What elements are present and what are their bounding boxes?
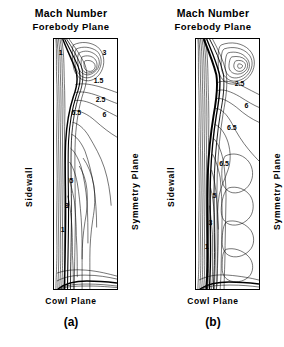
contour-label: 3	[209, 218, 213, 225]
panel-a-title-main: Mach Number	[0, 7, 142, 19]
panel-b-caption: (b)	[142, 315, 284, 329]
panel-b-title-main: Mach Number	[142, 7, 284, 19]
panel-a-label-cowl-plane: Cowl Plane	[0, 296, 142, 306]
contour-label: 6.5	[71, 109, 81, 116]
panel-a-caption: (a)	[0, 315, 142, 329]
panel-a-contour-plot: 1 3 1.5 2.5 6.5 6 5 3 1	[54, 39, 117, 289]
contour-label: 6.5	[219, 160, 229, 167]
contour-label: 1	[205, 243, 209, 250]
contour-label: 5	[70, 177, 74, 184]
contour-label: 2.5	[235, 80, 245, 87]
panel-b: Mach Number Forebody Plane Sidewall Symm…	[142, 0, 284, 347]
panel-b-plot-frame: 2.5 6 6.5 6.5 5 3 1	[195, 38, 260, 290]
contour-label: 6	[244, 102, 248, 109]
panel-b-contour-plot: 2.5 6 6.5 6.5 5 3 1	[196, 39, 259, 289]
panel-a: Mach Number Forebody Plane Sidewall Symm…	[0, 0, 142, 347]
panel-b-title-sub: Forebody Plane	[142, 21, 284, 32]
contour-label: 2.5	[96, 96, 106, 103]
contour-label: 1	[61, 226, 65, 233]
panel-a-label-symmetry-plane: Symmetry Plane	[130, 153, 140, 230]
panel-a-label-sidewall: Sidewall	[24, 167, 34, 207]
mach-number-contour-figure: Mach Number Forebody Plane Sidewall Symm…	[0, 0, 284, 347]
contour-label: 1	[59, 49, 63, 56]
panel-b-label-sidewall: Sidewall	[166, 167, 176, 207]
panel-b-label-cowl-plane: Cowl Plane	[142, 296, 284, 306]
panel-a-title-sub: Forebody Plane	[0, 21, 142, 32]
panel-a-plot-frame: 1 3 1.5 2.5 6.5 6 5 3 1	[53, 38, 118, 290]
panel-b-label-symmetry-plane: Symmetry Plane	[272, 153, 282, 230]
contour-label: 3	[65, 202, 69, 209]
contour-label: 5	[212, 192, 216, 199]
contour-label: 6.5	[227, 124, 237, 131]
contour-label: 3	[102, 49, 106, 56]
contour-label: 6	[102, 111, 106, 118]
contour-label: 1.5	[94, 77, 104, 84]
